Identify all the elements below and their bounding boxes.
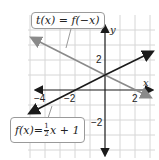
x-tick-neg2: −2 <box>64 93 75 104</box>
y-axis-label: y <box>110 24 116 35</box>
line-f-right <box>105 52 152 75</box>
x-tick-neg4: −4 <box>34 93 45 104</box>
f-fn: f(x) <box>15 124 34 137</box>
x-axis-label: x <box>143 77 149 88</box>
f-rhs: x + 1 <box>50 124 79 137</box>
t-rhs: f(−x) <box>71 14 99 27</box>
fraction-one-half: 12 <box>44 123 49 138</box>
t-fn: t(x) <box>36 14 55 27</box>
line-t <box>32 38 105 75</box>
t-equals: = <box>55 14 71 27</box>
f-equals: = <box>34 124 43 137</box>
x-tick-2: 2 <box>132 93 138 104</box>
t-equation-callout: t(x) = f(−x) <box>31 12 105 29</box>
y-tick-2: 2 <box>96 54 102 65</box>
f-equation-callout: f(x) = 12x + 1 <box>10 117 85 143</box>
y-tick-neg2: −2 <box>91 117 102 128</box>
